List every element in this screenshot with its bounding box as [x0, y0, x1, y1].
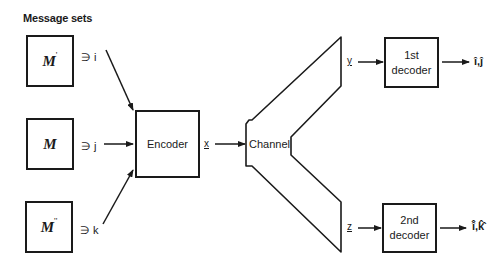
- channel-label: Channel: [249, 138, 290, 150]
- channel-output-z: z: [347, 221, 352, 232]
- encoder-label: Encoder: [147, 138, 188, 150]
- message-set-m: M: [26, 118, 74, 170]
- decoder-1-output: î,ĵ: [474, 55, 483, 67]
- decoder-2-line2: decoder: [390, 228, 430, 243]
- channel-output-y: y: [347, 55, 352, 66]
- decoder-1-line1: 1st: [404, 48, 419, 63]
- message-set-m-double-prime: M'': [25, 201, 73, 253]
- decoder-1-line2: decoder: [392, 63, 432, 78]
- message-set-symbol: M': [43, 52, 58, 70]
- message-set-symbol: M: [43, 135, 56, 153]
- encoder-output-x: x: [204, 138, 209, 149]
- arrow-m3-to-encoder: [103, 170, 133, 224]
- decoder-2-output: î̂,k̂̂: [472, 220, 484, 232]
- decoder-1-box: 1st decoder: [384, 37, 439, 88]
- member-k: ∋ k: [80, 224, 99, 237]
- decoder-2-line1: 2nd: [400, 213, 418, 228]
- decoder-2-box: 2nd decoder: [382, 203, 437, 253]
- encoder-box: Encoder: [135, 110, 200, 178]
- member-j: ∋ j: [81, 140, 97, 153]
- message-set-m-prime: M': [26, 35, 74, 87]
- arrow-m1-to-encoder: [106, 50, 133, 110]
- member-i: ∋ i: [81, 51, 97, 64]
- message-sets-heading: Message sets: [23, 12, 92, 24]
- message-set-symbol: M'': [41, 218, 58, 236]
